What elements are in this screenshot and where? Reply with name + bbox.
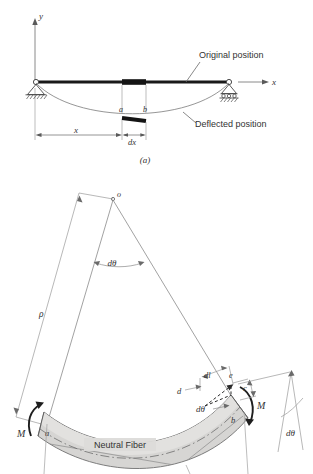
x-axis-label: x	[271, 77, 276, 87]
point-d-label: d	[177, 386, 182, 396]
figure-container: y x	[0, 0, 313, 474]
y-axis	[32, 18, 37, 82]
right-support-hatching	[221, 98, 238, 102]
dimension-dl-label: dl	[204, 370, 211, 380]
dimension-x	[36, 133, 123, 137]
right-support-triangle	[222, 84, 237, 93]
angle-dtheta-top	[94, 261, 145, 267]
dimension-x-label: x	[73, 125, 78, 135]
beam-element-original	[122, 79, 146, 85]
point-a-label-b: a	[45, 428, 49, 438]
center-of-curvature-label: o	[117, 190, 121, 199]
callout-original-leader	[186, 62, 200, 82]
point-e-label: e	[229, 370, 233, 380]
beam-element-deflected	[122, 118, 146, 121]
part-a-diagram: y x	[0, 0, 313, 180]
dimension-c-label: c	[243, 383, 247, 393]
angle-dtheta-right-label: dθ	[286, 428, 296, 438]
point-a-label: a	[119, 105, 123, 114]
callout-deflected-label: Deflected position	[195, 119, 267, 129]
y-axis-label: y	[38, 11, 43, 21]
deflected-curve	[36, 83, 229, 114]
x-axis	[238, 79, 269, 84]
neutral-fiber-label: Neutral Fiber	[94, 440, 146, 450]
point-b-label-b: b	[231, 415, 235, 425]
angle-dtheta-top-label: dθ	[108, 258, 118, 268]
point-d-leader	[185, 385, 202, 391]
part-b-diagram: o ρ dθ	[0, 180, 313, 474]
dimension-rho	[14, 193, 114, 425]
moment-right-label: M	[256, 400, 266, 411]
radius-rho-label: ρ	[38, 309, 44, 319]
angle-dtheta-right	[238, 370, 303, 452]
radius-line-right	[113, 200, 233, 399]
radius-line-left	[47, 200, 113, 424]
angle-dtheta-block-label: dθ	[196, 404, 206, 414]
right-support-rollers	[222, 94, 236, 97]
caption-part-a: (a)	[140, 155, 151, 165]
callout-original-label: Original position	[199, 50, 264, 60]
dimension-dx-label: dx	[128, 137, 136, 147]
left-support-triangle	[28, 84, 45, 94]
point-b-label: b	[143, 105, 147, 114]
left-support-hatching	[27, 95, 48, 99]
moment-left-label: M	[16, 428, 26, 439]
